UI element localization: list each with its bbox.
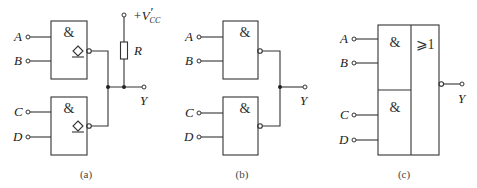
or-symbol: ⩾1: [416, 37, 435, 52]
input-terminal-c: [352, 113, 356, 117]
output-terminal-y: [142, 85, 146, 89]
output-terminal-y: [303, 85, 307, 89]
caption-c: (c): [398, 168, 411, 181]
input-terminal-c: [197, 111, 201, 115]
label-a: A: [13, 29, 22, 44]
label-y: Y: [458, 91, 467, 106]
caption-b: (b): [236, 168, 249, 181]
and-symbol: &: [64, 25, 75, 40]
inverter-bubble-icon: [439, 82, 444, 87]
label-d: D: [338, 132, 349, 147]
input-terminal-b: [26, 59, 30, 63]
circuit-c: & & ⩾1 Y A B C D (c): [338, 25, 467, 181]
label-d: D: [183, 129, 194, 144]
output-terminal-y: [460, 82, 464, 86]
open-drain-marker-icon: [72, 121, 84, 132]
and-symbol: &: [240, 101, 251, 116]
circuit-b: & A B & C D Y (b): [183, 21, 309, 181]
input-terminal-b: [352, 61, 356, 65]
label-d: D: [12, 129, 23, 144]
input-terminal-a: [197, 35, 201, 39]
label-b: B: [185, 53, 193, 68]
caption-a: (a): [80, 168, 93, 181]
logic-circuit-diagram: & A B & C D Y: [0, 0, 477, 188]
input-terminal-b: [197, 59, 201, 63]
label-c: C: [14, 104, 23, 119]
junction-dot: [106, 85, 110, 89]
label-c: C: [185, 105, 194, 120]
circuit-a: & A B & C D Y: [12, 4, 161, 181]
input-terminal-a: [26, 35, 30, 39]
label-vcc: +V′CC: [133, 4, 161, 25]
label-y: Y: [140, 93, 149, 108]
and-symbol: &: [390, 35, 401, 50]
input-terminal-d: [197, 135, 201, 139]
and-symbol: &: [240, 25, 251, 40]
and-symbol: &: [64, 101, 75, 116]
input-terminal-c: [26, 110, 30, 114]
supply-terminal: [122, 13, 126, 17]
label-a: A: [339, 31, 348, 46]
open-drain-marker-icon: [72, 46, 84, 57]
resistor-icon: [121, 42, 128, 59]
input-terminal-d: [26, 135, 30, 139]
and-symbol: &: [390, 100, 401, 115]
label-y: Y: [300, 93, 309, 108]
label-r: R: [133, 43, 142, 58]
label-b: B: [14, 53, 22, 68]
junction-dot: [278, 85, 282, 89]
label-b: B: [340, 55, 348, 70]
label-a: A: [184, 29, 193, 44]
label-c: C: [340, 107, 349, 122]
input-terminal-a: [352, 37, 356, 41]
input-terminal-d: [352, 138, 356, 142]
